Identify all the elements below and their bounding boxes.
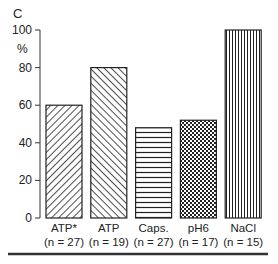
x-tick-label: NaCl [230, 222, 256, 234]
sample-size-label: (n = 27) [44, 236, 84, 248]
y-tick-label: 100 [12, 23, 32, 37]
sample-size-label: (n = 19) [89, 236, 129, 248]
x-tick-label: Caps. [139, 222, 169, 234]
x-tick-label: pH6 [188, 222, 209, 234]
bar-atp [91, 68, 127, 218]
y-axis-label: % [17, 42, 28, 56]
bar-nacl [225, 30, 261, 218]
x-tick-label: ATP [98, 222, 120, 234]
x-axis-labels: ATP*(n = 27)ATP(n = 19)Caps.(n = 27)pH6(… [44, 222, 263, 248]
sample-size-label: (n = 27) [134, 236, 174, 248]
x-tick-label: ATP* [51, 222, 78, 234]
sample-size-label: (n = 17) [178, 236, 218, 248]
bar-ph6 [180, 120, 216, 218]
y-tick-label: 0 [25, 211, 32, 225]
y-tick-label: 40 [19, 136, 33, 150]
sample-size-label: (n = 15) [223, 236, 263, 248]
bar-chart: C % 020406080100 ATP*(n = 27)ATP(n = 19)… [0, 0, 278, 264]
y-tick-label: 80 [19, 61, 33, 75]
y-tick-label: 60 [19, 98, 33, 112]
y-tick-label: 20 [19, 173, 33, 187]
bar-caps [136, 128, 172, 218]
bar-atp [46, 105, 82, 218]
panel-label: C [13, 6, 22, 21]
bars [46, 30, 261, 218]
